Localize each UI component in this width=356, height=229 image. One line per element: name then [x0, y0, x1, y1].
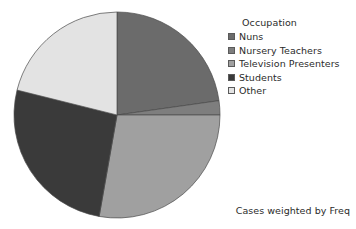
legend-item[interactable]: Nuns: [228, 31, 356, 42]
legend-item[interactable]: Students: [228, 72, 356, 83]
legend-title: Occupation: [242, 17, 356, 28]
legend-item-label: Other: [239, 85, 266, 96]
pie-slice-group: [14, 12, 220, 218]
pie-slice[interactable]: [117, 12, 219, 115]
chart-footnote: Cases weighted by Freq: [236, 205, 350, 216]
pie-slice[interactable]: [99, 115, 220, 218]
legend-swatch-icon: [228, 47, 235, 54]
legend-swatch-icon: [228, 74, 235, 81]
legend-item-label: Television Presenters: [239, 58, 340, 69]
legend-item-list: NunsNursery TeachersTelevision Presenter…: [228, 31, 356, 96]
pie-chart-figure: Occupation NunsNursery TeachersTelevisio…: [0, 0, 356, 229]
legend-item[interactable]: Television Presenters: [228, 58, 356, 69]
legend-item[interactable]: Other: [228, 85, 356, 96]
legend-item[interactable]: Nursery Teachers: [228, 45, 356, 56]
legend-swatch-icon: [228, 33, 235, 40]
legend-item-label: Students: [239, 72, 282, 83]
legend-swatch-icon: [228, 60, 235, 67]
chart-legend: Occupation NunsNursery TeachersTelevisio…: [228, 17, 356, 99]
legend-item-label: Nuns: [239, 31, 263, 42]
legend-item-label: Nursery Teachers: [239, 45, 322, 56]
legend-swatch-icon: [228, 87, 235, 94]
